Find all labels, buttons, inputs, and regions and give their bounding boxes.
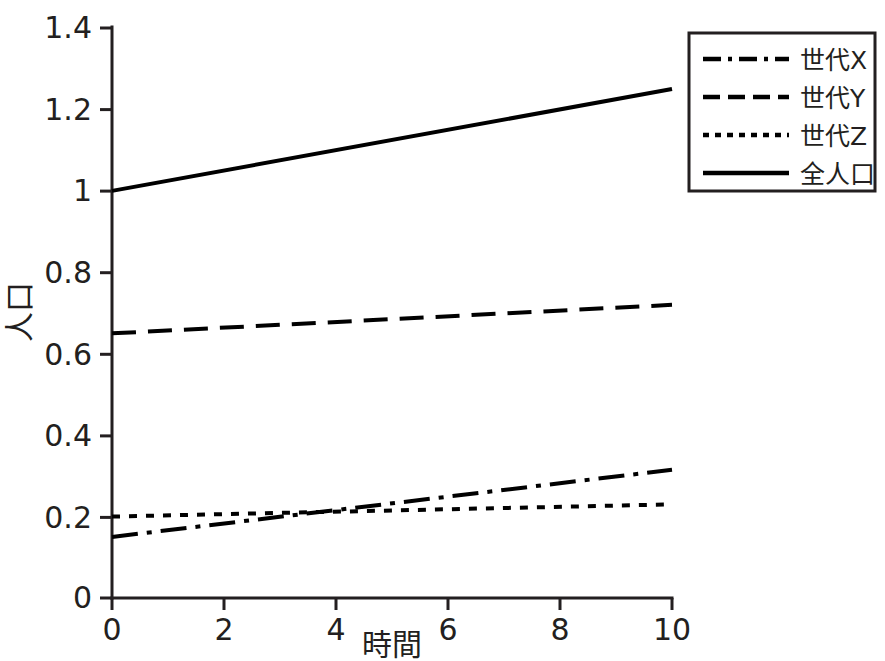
y-tick-label-4: 0.8 bbox=[44, 255, 92, 290]
y-tick-label-3: 0.6 bbox=[44, 337, 92, 372]
legend-label-3: 全人口 bbox=[800, 160, 875, 189]
x-tick-label-5: 10 bbox=[653, 612, 691, 647]
population-line-chart: 0 0.2 0.4 0.6 0.8 1 1.2 1.4 0 2 4 6 8 10 bbox=[0, 0, 885, 661]
legend-label-1: 世代Y bbox=[800, 84, 866, 113]
x-tick-label-2: 4 bbox=[326, 612, 345, 647]
legend-label-0: 世代X bbox=[800, 46, 867, 75]
chart-figure: 0 0.2 0.4 0.6 0.8 1 1.2 1.4 0 2 4 6 8 10 bbox=[0, 0, 885, 661]
x-tick-label-3: 6 bbox=[438, 612, 457, 647]
x-axis-title: 時間 bbox=[362, 627, 422, 661]
x-tick-label-4: 8 bbox=[550, 612, 569, 647]
y-tick-label-6: 1.2 bbox=[44, 92, 92, 127]
x-tick-label-1: 2 bbox=[214, 612, 233, 647]
legend-label-2: 世代Z bbox=[800, 122, 867, 151]
y-axis-title: 人口 bbox=[2, 282, 37, 342]
x-tick-label-0: 0 bbox=[102, 612, 121, 647]
y-tick-label-2: 0.4 bbox=[44, 418, 92, 453]
legend: 世代X 世代Y 世代Z 全人口 bbox=[689, 33, 875, 191]
y-tick-label-5: 1 bbox=[73, 173, 92, 208]
y-tick-label-7: 1.4 bbox=[44, 10, 92, 45]
y-tick-label-1: 0.2 bbox=[44, 500, 92, 535]
y-tick-label-0: 0 bbox=[73, 580, 92, 615]
